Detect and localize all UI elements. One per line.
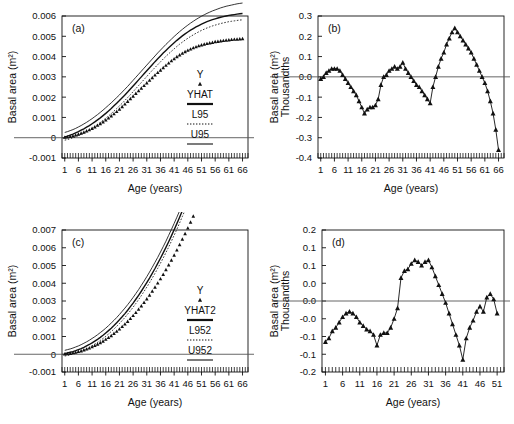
data-marker	[447, 36, 452, 41]
x-axis-title: Age (years)	[384, 182, 438, 194]
x-tick-label: 16	[372, 378, 383, 389]
x-tick-label: 46	[183, 164, 194, 175]
x-axis-title: Age (years)	[128, 396, 182, 408]
panel-c: -0.00100.0010.0020.0030.0040.0050.0060.0…	[0, 212, 258, 424]
x-tick-label: 26	[406, 378, 417, 389]
panel-b-canvas: -0.4-0.3-0.2-0.10.00.10.20.3161116212631…	[256, 0, 514, 212]
data-marker	[153, 285, 157, 288]
data-marker	[471, 56, 476, 61]
x-tick-label: 31	[398, 164, 409, 175]
data-marker	[205, 42, 209, 45]
data-marker	[142, 301, 146, 304]
data-marker	[164, 63, 168, 66]
data-marker	[347, 309, 352, 314]
data-marker	[400, 60, 405, 65]
series-yhat	[65, 14, 243, 137]
x-tick-label: 61	[224, 378, 235, 389]
y-tick-label: -0.0	[300, 313, 316, 324]
x-tick-label: 61	[224, 164, 235, 175]
x-tick-label: 36	[411, 164, 422, 175]
panel-label: (d)	[332, 236, 345, 248]
y-tick-label: 0.005	[32, 31, 56, 42]
data-marker	[145, 297, 149, 300]
x-tick-label: 66	[237, 164, 248, 175]
x-tick-label: 6	[76, 378, 81, 389]
data-marker	[104, 118, 108, 121]
x-tick-label: 46	[475, 378, 486, 389]
x-tick-label: 46	[439, 164, 450, 175]
y-tick-label: -0.1	[300, 349, 316, 360]
x-tick-label: 11	[87, 378, 97, 389]
y-axis-title: Basal area (m²)	[6, 265, 18, 337]
data-marker	[430, 84, 435, 89]
data-marker	[104, 337, 108, 340]
x-tick-label: 1	[318, 164, 323, 175]
data-marker	[191, 46, 195, 49]
panel-a: -0.00100.0010.0020.0030.0040.0050.006161…	[0, 0, 258, 212]
data-marker	[172, 57, 176, 60]
data-marker	[140, 304, 144, 307]
data-marker	[112, 332, 116, 335]
data-marker	[436, 64, 441, 69]
series-y-markers	[63, 212, 203, 356]
data-marker	[376, 97, 381, 102]
y-tick-label: 0.004	[32, 278, 56, 289]
data-marker	[101, 339, 105, 342]
x-tick-label: 1	[323, 378, 328, 389]
data-marker	[395, 306, 400, 311]
x-tick-label: 41	[169, 164, 180, 175]
y-tick-label: 0.2	[299, 31, 312, 42]
data-marker	[164, 268, 168, 271]
panel-a-canvas: -0.00100.0010.0020.0030.0040.0050.006161…	[0, 0, 258, 212]
series-yhat2	[65, 212, 202, 354]
data-marker	[198, 298, 202, 302]
panel-c-canvas: -0.00100.0010.0020.0030.0040.0050.0060.0…	[0, 212, 258, 424]
data-marker	[359, 105, 364, 110]
x-tick-label: 21	[370, 164, 381, 175]
y-tick-label: -0.001	[29, 152, 56, 163]
data-marker	[477, 68, 482, 73]
panel-d: -0.2-0.1-0.1-0.00.00.00.10.10.2161116212…	[256, 212, 514, 424]
x-tick-label: 36	[440, 378, 451, 389]
y-tick-label: -0.3	[296, 132, 312, 143]
y-tick-label: -0.2	[300, 366, 316, 377]
plot-frame	[62, 16, 248, 158]
data-marker	[464, 336, 469, 341]
y-tick-label: 0.001	[32, 112, 56, 123]
data-marker	[374, 343, 379, 348]
data-marker	[436, 282, 441, 287]
panel-label: (c)	[72, 236, 84, 248]
data-marker	[79, 131, 83, 134]
data-marker	[357, 99, 362, 104]
legend-label-y: Y	[197, 285, 204, 296]
data-marker	[156, 281, 160, 284]
y-tick-label: 0.007	[32, 224, 56, 235]
data-marker	[453, 332, 458, 337]
data-marker	[403, 66, 408, 71]
data-marker	[200, 43, 204, 46]
data-marker	[109, 334, 113, 337]
data-marker	[198, 82, 202, 86]
x-tick-label: 36	[155, 378, 166, 389]
data-marker	[241, 37, 245, 40]
data-marker	[474, 62, 479, 67]
data-marker	[496, 147, 501, 152]
y-tick-label: 0.002	[32, 92, 56, 103]
data-marker	[388, 325, 393, 330]
x-tick-label: 51	[492, 378, 503, 389]
x-tick-label: 1	[62, 378, 67, 389]
data-marker	[167, 263, 171, 266]
x-tick-label: 21	[114, 378, 125, 389]
x-tick-label: 31	[423, 378, 434, 389]
residual-line	[321, 28, 499, 150]
data-marker	[457, 343, 462, 348]
x-tick-label: 66	[493, 164, 504, 175]
data-marker	[493, 127, 498, 132]
y-tick-label: 0.003	[32, 71, 56, 82]
residual-line	[325, 260, 497, 359]
x-tick-label: 51	[196, 164, 207, 175]
data-marker	[183, 232, 187, 235]
data-marker	[197, 44, 201, 47]
data-marker	[392, 316, 397, 321]
y-tick-label: -0.001	[29, 366, 56, 377]
